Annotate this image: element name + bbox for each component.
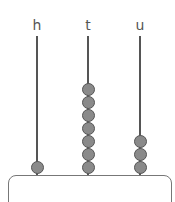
bead-tens bbox=[82, 122, 95, 135]
bead-units bbox=[134, 148, 147, 161]
bead-tens bbox=[82, 109, 95, 122]
bead-hundreds bbox=[31, 161, 44, 174]
abacus-base-frame bbox=[8, 175, 172, 202]
rod-hundreds bbox=[36, 36, 38, 175]
rod-label-units: u bbox=[130, 17, 150, 33]
bead-tens bbox=[82, 83, 95, 96]
bead-units bbox=[134, 135, 147, 148]
bead-tens bbox=[82, 96, 95, 109]
bead-tens bbox=[82, 161, 95, 174]
rod-label-tens: t bbox=[78, 17, 98, 33]
bead-tens bbox=[82, 135, 95, 148]
bead-units bbox=[134, 161, 147, 174]
rod-label-hundreds: h bbox=[27, 17, 47, 33]
bead-tens bbox=[82, 148, 95, 161]
